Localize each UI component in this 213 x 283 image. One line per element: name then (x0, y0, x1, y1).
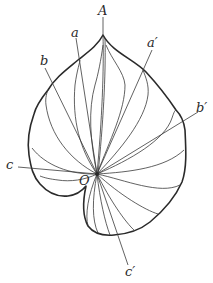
vein-inner-left (91, 45, 103, 174)
label-c-prime: c′ (125, 264, 135, 279)
label-c: c (6, 157, 14, 172)
label-b-prime: b′ (196, 100, 207, 115)
vein-right-2 (97, 110, 176, 174)
vein-right-4 (97, 174, 180, 188)
ray-b-prime (97, 112, 198, 174)
vein-lower-2 (93, 174, 98, 233)
leaf-outline (28, 35, 186, 235)
vein-left-3 (32, 148, 97, 174)
center-point (95, 172, 99, 176)
vein-lower-right-1 (97, 174, 158, 214)
label-a: a (71, 25, 79, 40)
ray-a (76, 38, 97, 174)
label-A: A (97, 3, 107, 18)
ray-c-prime (97, 174, 128, 265)
label-O: O (79, 173, 90, 188)
leaf-diagram: A a a′ b b′ c O c′ (0, 0, 213, 283)
vein-inner-right (97, 45, 125, 174)
label-a-prime: a′ (147, 35, 158, 50)
vein-right-3 (97, 150, 184, 174)
label-b: b (40, 53, 48, 68)
